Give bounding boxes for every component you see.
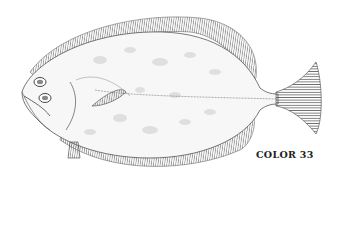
figure-caption: COLOR 33 xyxy=(256,149,314,160)
pelvic-fin xyxy=(68,142,80,158)
tail-fin xyxy=(276,62,321,134)
